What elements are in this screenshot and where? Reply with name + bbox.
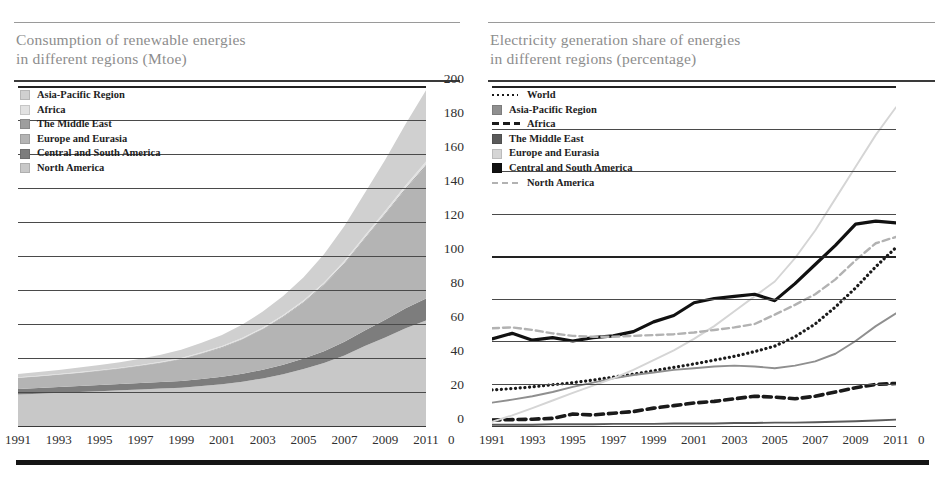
x-axis-tick-label: 1995 <box>553 432 593 447</box>
left-legend: Asia-Pacific RegionAfricaThe Middle East… <box>20 88 160 176</box>
y-axis-tick-label: 140 <box>430 174 464 188</box>
legend-swatch-icon <box>492 91 522 99</box>
x-axis-tick-label: 1991 <box>0 432 38 447</box>
x-axis-tick-label: 2001 <box>674 432 714 447</box>
x-axis-tick-label: 2003 <box>243 432 283 447</box>
gridline <box>18 290 426 291</box>
legend-label: Europe and Eurasia <box>509 146 599 161</box>
y-axis-zero-label: 0 <box>448 432 455 448</box>
legend-label: Central and South America <box>37 146 160 161</box>
legend-item: Asia-Pacific Region <box>20 88 160 103</box>
bottom-decorative-bar <box>16 460 929 465</box>
y-axis-tick-label: 20 <box>430 378 464 392</box>
left-chart-panel: Consumption of renewable energies in dif… <box>0 0 470 479</box>
legend-label: Central and South America <box>509 161 632 176</box>
x-axis-tick-label: 1999 <box>634 432 674 447</box>
x-axis-tick-label: 2011 <box>406 432 446 447</box>
y-axis-tick-label: 60 <box>430 310 464 324</box>
line-series <box>492 384 896 421</box>
gridline <box>18 324 426 325</box>
gridline <box>18 188 426 189</box>
legend-swatch-icon <box>20 90 30 100</box>
y-axis-tick-label: 40 <box>430 344 464 358</box>
legend-label: World <box>527 88 556 103</box>
legend-item: Central and South America <box>492 161 632 176</box>
legend-label: North America <box>527 176 594 191</box>
gridline <box>492 256 896 258</box>
legend-swatch-icon <box>20 105 30 115</box>
legend-swatch-icon <box>492 120 522 128</box>
legend-label: The Middle East <box>509 132 584 147</box>
x-axis-tick-label: 2011 <box>876 432 916 447</box>
legend-item: Central and South America <box>20 146 160 161</box>
legend-label: Asia-Pacific Region <box>509 103 597 118</box>
x-axis-tick-label: 2009 <box>836 432 876 447</box>
gridline <box>18 222 426 223</box>
x-axis-tick-label: 2001 <box>202 432 242 447</box>
x-axis-tick-label: 1997 <box>593 432 633 447</box>
x-axis-tick-label: 2007 <box>324 432 364 447</box>
y-axis-tick-label: 120 <box>430 208 464 222</box>
legend-swatch-icon <box>20 149 30 159</box>
legend-item: Europe and Eurasia <box>492 146 632 161</box>
legend-label: Africa <box>527 117 556 132</box>
left-title-line-2: in different regions (Mtoe) <box>16 49 416 68</box>
x-axis-tick-label: 1993 <box>512 432 552 447</box>
right-title-line-2: in different regions (percentage) <box>490 49 890 68</box>
y-axis-zero-label: 0 <box>918 432 925 448</box>
two-panel-figure: Consumption of renewable energies in dif… <box>0 0 943 479</box>
top-rule-left <box>14 22 460 23</box>
legend-item: World <box>492 88 632 103</box>
line-series <box>492 313 896 402</box>
x-axis-tick-label: 2003 <box>714 432 754 447</box>
line-series <box>492 237 896 337</box>
legend-swatch-icon <box>492 163 502 173</box>
right-chart-panel: Electricity generation share of energies… <box>480 0 943 479</box>
title-rule-left <box>14 80 460 82</box>
x-axis-tick-label: 2005 <box>755 432 795 447</box>
x-axis-tick-label: 2007 <box>795 432 835 447</box>
gridline <box>18 392 426 393</box>
legend-swatch-icon <box>492 149 502 159</box>
legend-swatch-icon <box>492 134 502 144</box>
y-axis-tick-label: 100 <box>430 242 464 256</box>
left-chart-title: Consumption of renewable energies in dif… <box>16 30 416 68</box>
legend-swatch-icon <box>492 179 522 187</box>
legend-swatch-icon <box>20 163 30 173</box>
gridline <box>492 341 896 342</box>
title-rule-right <box>488 80 935 82</box>
gridline <box>18 358 426 359</box>
x-axis-tick-label: 1995 <box>80 432 120 447</box>
y-axis-tick-label: 0 <box>430 412 464 426</box>
y-axis-tick-label: 160 <box>430 140 464 154</box>
legend-label: North America <box>37 161 104 176</box>
y-axis-tick-label: 180 <box>430 106 464 120</box>
y-axis-tick-label: 200 <box>430 72 464 86</box>
top-rule-right <box>488 22 935 23</box>
gridline <box>492 384 896 385</box>
x-axis-tick-label: 1997 <box>120 432 160 447</box>
legend-label: Asia-Pacific Region <box>37 88 125 103</box>
legend-item: Africa <box>20 103 160 118</box>
right-chart-title: Electricity generation share of energies… <box>490 30 890 68</box>
x-axis-tick-label: 1999 <box>161 432 201 447</box>
line-series <box>492 221 896 341</box>
gridline <box>18 256 426 257</box>
legend-label: Africa <box>37 103 66 118</box>
legend-label: Europe and Eurasia <box>37 132 127 147</box>
gridline <box>492 426 896 427</box>
gridline <box>492 214 896 215</box>
legend-item: North America <box>492 176 632 191</box>
legend-item: North America <box>20 161 160 176</box>
right-title-line-1: Electricity generation share of energies <box>490 30 890 49</box>
x-axis-tick-label: 1993 <box>39 432 79 447</box>
gridline <box>492 299 896 300</box>
legend-item: The Middle East <box>492 132 632 147</box>
right-legend: WorldAsia-Pacific RegionAfricaThe Middle… <box>492 88 632 190</box>
left-title-line-1: Consumption of renewable energies <box>16 30 416 49</box>
legend-item: The Middle East <box>20 117 160 132</box>
legend-item: Africa <box>492 117 632 132</box>
legend-swatch-icon <box>492 105 502 115</box>
x-axis-tick-label: 2009 <box>365 432 405 447</box>
x-axis-tick-label: 1991 <box>472 432 512 447</box>
